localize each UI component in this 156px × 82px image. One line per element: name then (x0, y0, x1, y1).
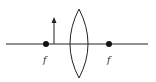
left-focal-label: f (42, 55, 48, 65)
right-focal-point (106, 41, 112, 47)
right-focal-label: f (106, 55, 112, 65)
arrow-up-icon (52, 17, 57, 23)
lens-diagram: f f (0, 0, 156, 82)
left-focal-point (43, 41, 49, 47)
